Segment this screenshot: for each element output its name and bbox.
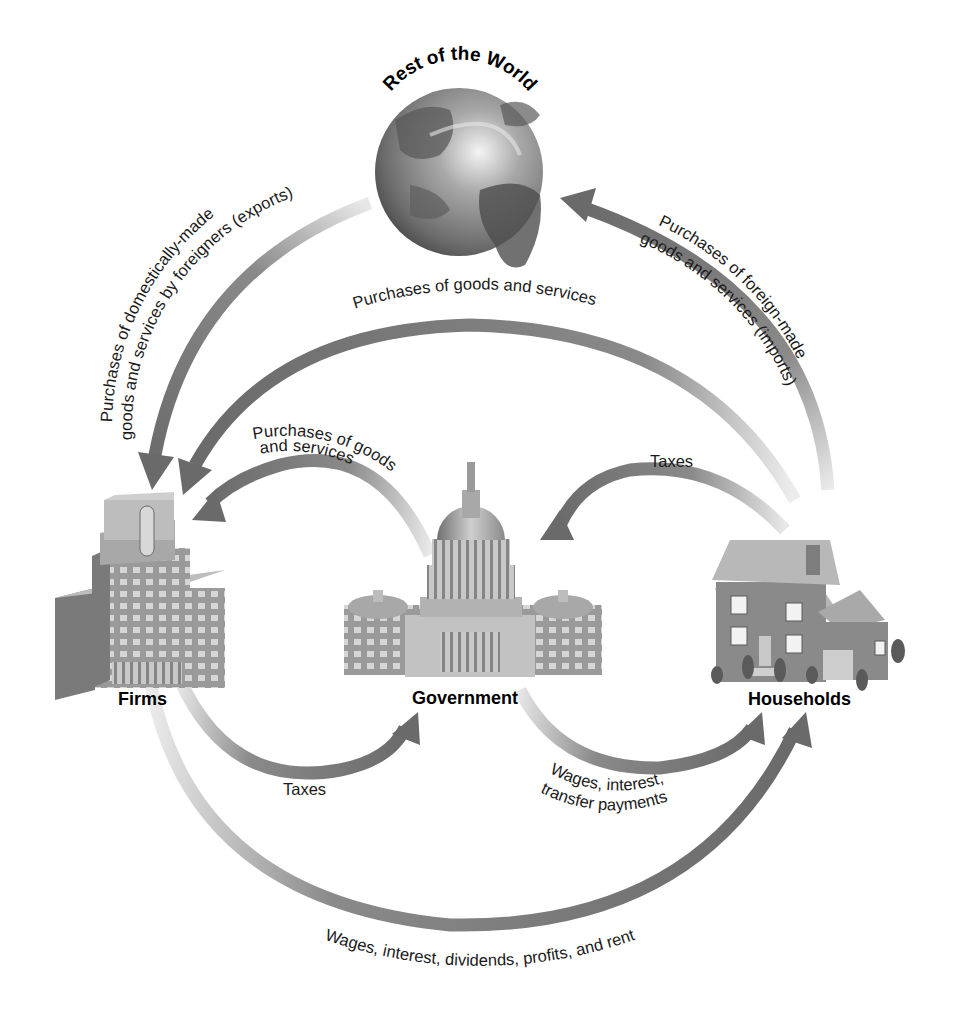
office-building-icon (55, 492, 225, 700)
government-node: Government (344, 462, 602, 708)
house-icon (711, 540, 905, 691)
rest-of-world-node: Rest of the World (375, 43, 543, 268)
world-label: Rest of the World (379, 43, 542, 95)
flow-arrow-government-payments (520, 690, 765, 768)
flow-arrow-government-purchases (192, 461, 430, 555)
firm-taxes-label: Taxes (283, 780, 326, 798)
households-node: Households (711, 540, 905, 709)
household-taxes-label: Taxes (650, 452, 693, 470)
factor-payments-label: Wages, interest, dividends, profits, and… (323, 925, 637, 969)
firms-label: Firms (118, 689, 167, 709)
households-label: Households (748, 689, 851, 709)
firms-node: Firms (55, 492, 225, 709)
flow-arrow-firm-taxes (180, 680, 420, 773)
circular-flow-diagram: Rest of the World Firms (0, 0, 956, 1011)
flow-arrow-factor-payments (150, 680, 812, 925)
flow-arrow-household-taxes (540, 469, 785, 540)
globe-icon (375, 88, 543, 268)
household-purchases-label: Purchases of goods and services (350, 274, 598, 311)
government-label: Government (412, 688, 518, 708)
